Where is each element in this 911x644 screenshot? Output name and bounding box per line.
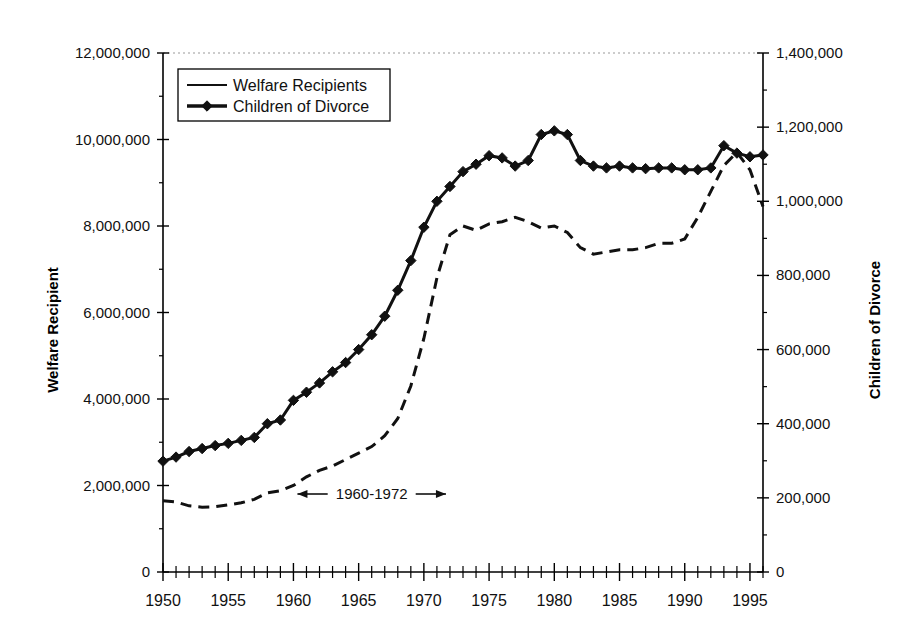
right-axis-tick-label: 0: [776, 563, 784, 580]
right-axis-tick-label: 1,400,000: [776, 44, 843, 61]
right-axis-tick-label: 400,000: [776, 415, 830, 432]
left-axis-tick-label: 6,000,000: [83, 304, 150, 321]
chart-legend: Welfare RecipientsChildren of Divorce: [178, 69, 390, 121]
left-axis-tick-label: 10,000,000: [75, 131, 150, 148]
left-axis-tick-label: 12,000,000: [75, 44, 150, 61]
left-axis-title: Welfare Recipient: [44, 267, 61, 393]
x-axis-tick-label: 1960: [276, 592, 312, 609]
right-axis-tick-label: 600,000: [776, 341, 830, 358]
x-axis-tick-label: 1985: [602, 592, 638, 609]
dual-axis-line-chart: 02,000,0004,000,0006,000,0008,000,00010,…: [0, 0, 911, 644]
period-annotation-label: 1960-1972: [336, 485, 408, 502]
chart-background: [0, 0, 911, 644]
x-axis-tick-label: 1975: [471, 592, 507, 609]
right-axis-tick-label: 1,000,000: [776, 192, 843, 209]
left-axis-tick-label: 4,000,000: [83, 390, 150, 407]
left-axis-tick-label: 2,000,000: [83, 477, 150, 494]
chart-container: 02,000,0004,000,0006,000,0008,000,00010,…: [0, 0, 911, 644]
x-axis-tick-label: 1965: [341, 592, 377, 609]
x-axis-tick-label: 1955: [210, 592, 246, 609]
legend-label: Children of Divorce: [233, 98, 369, 115]
right-axis-title: Children of Divorce: [866, 261, 883, 399]
x-axis-tick-label: 1970: [406, 592, 442, 609]
legend-label: Welfare Recipients: [233, 77, 367, 94]
right-axis-tick-label: 200,000: [776, 489, 830, 506]
right-axis-tick-label: 1,200,000: [776, 118, 843, 135]
x-axis-tick-label: 1980: [537, 592, 573, 609]
right-axis-tick-label: 800,000: [776, 266, 830, 283]
x-axis-tick-label: 1950: [145, 592, 181, 609]
left-axis-tick-label: 0: [142, 563, 150, 580]
x-axis-tick-label: 1990: [667, 592, 703, 609]
x-axis-tick-label: 1995: [732, 592, 768, 609]
left-axis-tick-label: 8,000,000: [83, 217, 150, 234]
